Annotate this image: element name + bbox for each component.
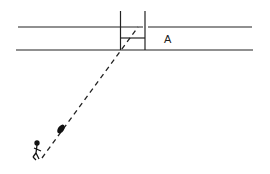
kicker-icon <box>33 141 41 160</box>
diagram-canvas <box>0 0 270 174</box>
region-label-a: A <box>164 33 171 45</box>
ball-trajectory <box>42 27 138 158</box>
